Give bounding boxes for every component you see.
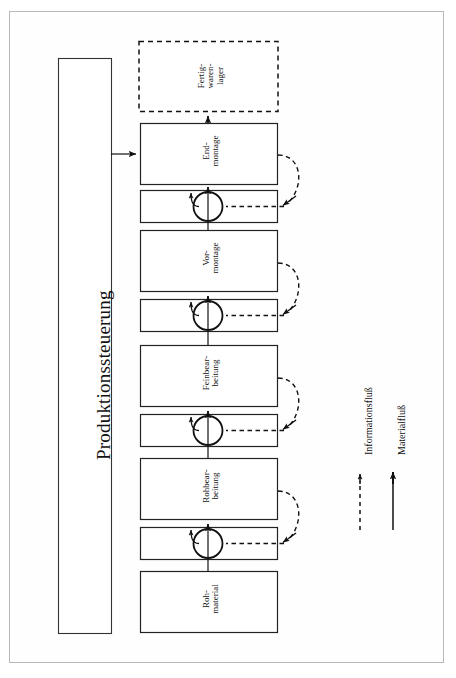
stage-box-endmontage[interactable]: [141, 124, 278, 185]
stage-box-vormontage[interactable]: [141, 231, 278, 292]
warehouse-box[interactable]: [139, 42, 278, 112]
diagram-canvas: [0, 0, 456, 678]
stage-box-rohbearbeitung[interactable]: [141, 459, 278, 520]
stage-box-feinbearbeitung[interactable]: [141, 346, 278, 407]
controller-box[interactable]: [59, 59, 112, 634]
diagram-page: Produktionssteuerung Fertig- waren- lage…: [0, 0, 456, 678]
raw-material-box[interactable]: [141, 572, 278, 633]
